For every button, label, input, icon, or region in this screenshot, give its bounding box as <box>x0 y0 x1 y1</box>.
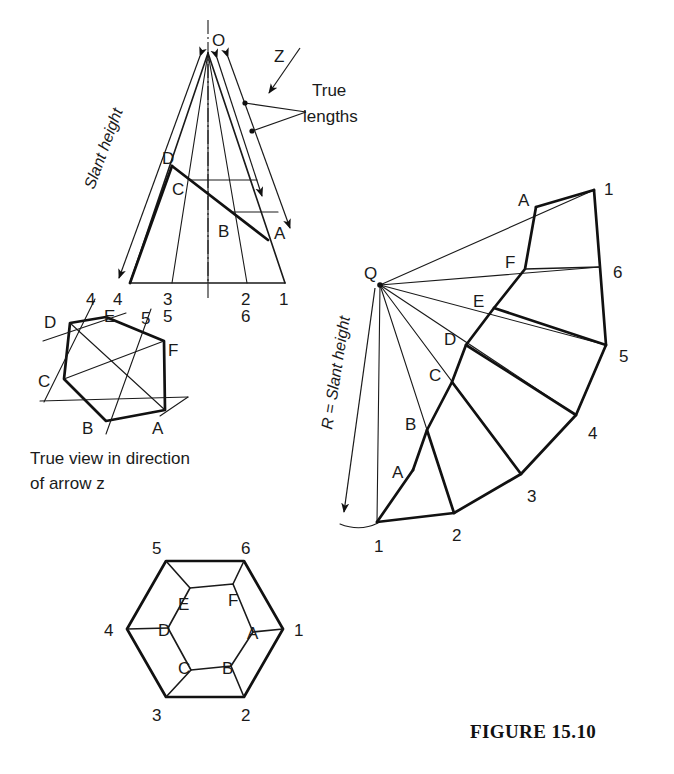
generator-2-6 <box>208 53 247 283</box>
development-group: R = Slant height Q 1 6 5 4 3 2 1 A F E D… <box>318 180 628 556</box>
dev-outer-label-1-top: 1 <box>604 180 613 199</box>
true-view-ray-label-5: 5 <box>141 309 150 328</box>
dev-cut-label-a-top: A <box>518 191 530 210</box>
plan-label-e: E <box>178 595 189 614</box>
true-view-label-b: B <box>82 419 93 438</box>
apex-label-o: O <box>212 31 225 50</box>
dev-outer-label-1-bottom: 1 <box>374 537 383 556</box>
true-view-caption-line1: True view in direction <box>30 449 190 468</box>
elevation-base-label-5: 5 <box>163 307 172 326</box>
dev-radial-1-bottom <box>377 285 380 522</box>
dev-cut-label-e: E <box>473 292 484 311</box>
plan-view-group: 1 2 3 4 5 6 A B C D E F <box>104 539 303 725</box>
dev-base-arc-tick <box>340 523 378 528</box>
true-lengths-leader-b <box>252 112 306 131</box>
true-view-label-c: C <box>38 372 50 391</box>
dev-cut-label-d: D <box>444 330 456 349</box>
plan-label-a: A <box>247 624 259 643</box>
figure-caption: FIGURE 15.10 <box>470 721 596 742</box>
dev-cut-label-a-bottom: A <box>392 463 404 482</box>
plan-edge-5-e <box>166 561 190 588</box>
true-view-label-e: E <box>104 307 115 326</box>
dev-outer-label-4: 4 <box>588 424 597 443</box>
front-elevation-group: Slant height O D C B A 4 3 2 6 1 5 Z Tru… <box>81 20 358 326</box>
dev-cut-label-b: B <box>405 415 416 434</box>
leader-dot-b <box>249 128 254 133</box>
true-view-label-f: F <box>168 341 178 360</box>
plan-label-2: 2 <box>241 706 250 725</box>
dev-outer-label-5: 5 <box>619 347 628 366</box>
dev-panel-4d <box>466 345 576 415</box>
true-view-outline <box>64 317 165 421</box>
true-view-ray-label-4: 4 <box>86 290 95 309</box>
dev-panel-6f <box>525 267 600 269</box>
dev-cut-label-c: C <box>429 366 441 385</box>
dev-panel-3c <box>452 382 521 474</box>
technical-drawing-canvas: Slant height O D C B A 4 3 2 6 1 5 Z Tru… <box>0 0 674 774</box>
cut-edge-left <box>130 166 172 283</box>
dev-radial-6 <box>380 267 600 285</box>
slant-height-dimension-line <box>119 56 200 278</box>
plan-label-c: C <box>178 659 190 678</box>
dev-outer-label-2: 2 <box>452 526 461 545</box>
dev-outer-label-6: 6 <box>613 263 622 282</box>
elevation-label-d: D <box>162 149 174 168</box>
plan-edge-6-f <box>233 561 244 584</box>
dev-cut-curve <box>413 207 536 470</box>
elevation-base-label-6: 6 <box>241 307 250 326</box>
dev-panel-1a <box>536 190 594 207</box>
dev-panel-2b <box>427 430 454 513</box>
plan-label-3: 3 <box>152 706 161 725</box>
true-length-dim-1 <box>217 58 262 196</box>
figure-sheet: Slant height O D C B A 4 3 2 6 1 5 Z Tru… <box>0 0 674 774</box>
dev-radius-label: R = Slant height <box>318 314 353 430</box>
dev-centre-dot <box>377 282 383 288</box>
dev-panel-5e <box>494 308 606 345</box>
plan-label-d: D <box>158 621 170 640</box>
true-view-label-d: D <box>44 313 56 332</box>
dev-radial-5 <box>380 285 606 345</box>
elevation-label-c: C <box>172 180 184 199</box>
plan-label-4: 4 <box>104 621 113 640</box>
elevation-label-a: A <box>274 224 286 243</box>
plan-label-f: F <box>228 591 238 610</box>
true-view-chord-c-f <box>64 341 164 379</box>
plan-label-b: B <box>222 659 233 678</box>
true-lengths-leader-a <box>245 103 306 112</box>
dev-outer-label-3: 3 <box>527 487 536 506</box>
plan-label-6: 6 <box>241 539 250 558</box>
elevation-label-b: B <box>218 222 229 241</box>
generator-3-5 <box>172 53 208 283</box>
elevation-base-label-1: 1 <box>279 290 288 309</box>
leader-dot-a <box>242 100 247 105</box>
true-lengths-label-line1: True <box>312 81 346 100</box>
dev-centre-label-q: Q <box>364 264 377 283</box>
plan-label-5: 5 <box>152 539 161 558</box>
dev-radial-1-top <box>380 190 594 285</box>
true-view-caption-line2: of arrow z <box>30 474 105 493</box>
dev-cut-label-f: F <box>505 253 515 272</box>
true-lengths-label-line2: lengths <box>303 107 358 126</box>
slant-height-label: Slant height <box>81 105 126 191</box>
true-view-label-a: A <box>152 419 164 438</box>
plan-label-1: 1 <box>294 621 303 640</box>
arrow-z-label: Z <box>274 47 284 66</box>
